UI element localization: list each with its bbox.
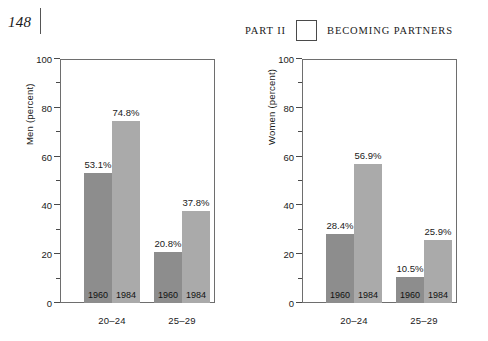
bar-year-label: 1960 bbox=[88, 290, 108, 300]
bar: 53.1%1960 bbox=[84, 173, 112, 303]
y-tick-label: 20 bbox=[283, 249, 294, 260]
x-tick-label: 25–29 bbox=[168, 315, 195, 326]
bar-year-label: 1960 bbox=[158, 290, 178, 300]
axis-area-women: 020406080100 28.4%196056.9%198420–2410.5… bbox=[302, 59, 457, 303]
x-tick-label: 25–29 bbox=[410, 315, 437, 326]
bar-year-label: 1984 bbox=[186, 290, 206, 300]
axis-area-men: 020406080100 53.1%196074.8%198420–2420.8… bbox=[60, 59, 215, 303]
bar: 28.4%1960 bbox=[326, 234, 354, 303]
bar: 37.8%1984 bbox=[182, 211, 210, 303]
bar-group: 28.4%196056.9%198420–24 bbox=[326, 59, 382, 303]
bar-group: 10.5%196025.9%198425–29 bbox=[396, 59, 452, 303]
bar-value-label: 74.8% bbox=[113, 107, 140, 118]
bar-year-label: 1984 bbox=[428, 290, 448, 300]
folio-divider-rule bbox=[40, 8, 41, 34]
y-axis-label-women: Women (percent) bbox=[266, 69, 277, 145]
bar: 56.9%1984 bbox=[354, 164, 382, 303]
bar-value-label: 20.8% bbox=[155, 238, 182, 249]
x-tick-label: 20–24 bbox=[340, 315, 367, 326]
y-tick-label: 40 bbox=[283, 200, 294, 211]
running-head-box-icon bbox=[296, 20, 317, 41]
bar: 20.8%1960 bbox=[154, 252, 182, 303]
bar: 10.5%1960 bbox=[396, 277, 424, 303]
y-tick-label: 80 bbox=[41, 102, 52, 113]
bars-women: 28.4%196056.9%198420–2410.5%196025.9%198… bbox=[302, 59, 457, 303]
bar-value-label: 56.9% bbox=[355, 150, 382, 161]
bar-value-label: 37.8% bbox=[183, 197, 210, 208]
chart-men: Men (percent) 020406080100 53.1%196074.8… bbox=[22, 55, 218, 335]
bar: 25.9%1984 bbox=[424, 240, 452, 303]
bar-value-label: 25.9% bbox=[425, 226, 452, 237]
y-tick-label: 100 bbox=[36, 54, 52, 65]
y-tick-label: 40 bbox=[41, 200, 52, 211]
y-tick-label: 100 bbox=[278, 54, 294, 65]
bar-group: 20.8%196037.8%198425–29 bbox=[154, 59, 210, 303]
bar-group: 53.1%196074.8%198420–24 bbox=[84, 59, 140, 303]
plot-area-women: Women (percent) 020406080100 28.4%196056… bbox=[264, 55, 460, 335]
y-tick-label: 60 bbox=[41, 151, 52, 162]
x-tick-label: 20–24 bbox=[98, 315, 125, 326]
section-label: BECOMING PARTNERS bbox=[327, 25, 453, 36]
plot-area-men: Men (percent) 020406080100 53.1%196074.8… bbox=[22, 55, 218, 335]
part-label: PART II bbox=[245, 25, 286, 36]
y-tick-label: 20 bbox=[41, 249, 52, 260]
bar-year-label: 1984 bbox=[358, 290, 378, 300]
bar-value-label: 28.4% bbox=[327, 220, 354, 231]
bar-year-label: 1984 bbox=[116, 290, 136, 300]
y-tick-label: 60 bbox=[283, 151, 294, 162]
bar-value-label: 53.1% bbox=[85, 159, 112, 170]
chart-women: Women (percent) 020406080100 28.4%196056… bbox=[264, 55, 460, 335]
bar-value-label: 10.5% bbox=[397, 263, 424, 274]
y-tick-label: 80 bbox=[283, 102, 294, 113]
y-tick-label: 0 bbox=[47, 298, 52, 309]
y-axis-label-men: Men (percent) bbox=[24, 83, 35, 145]
bar: 74.8%1984 bbox=[112, 121, 140, 304]
y-tick-label: 0 bbox=[289, 298, 294, 309]
page-number: 148 bbox=[8, 14, 31, 31]
running-head: PART II BECOMING PARTNERS bbox=[245, 20, 453, 41]
bars-men: 53.1%196074.8%198420–2420.8%196037.8%198… bbox=[60, 59, 215, 303]
bar-year-label: 1960 bbox=[400, 290, 420, 300]
bar-year-label: 1960 bbox=[330, 290, 350, 300]
